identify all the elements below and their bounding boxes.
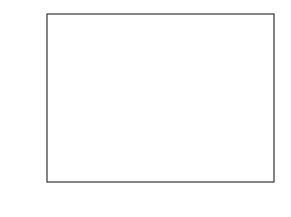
plot-frame xyxy=(47,14,274,182)
breakthrough-curve-chart xyxy=(0,0,291,217)
